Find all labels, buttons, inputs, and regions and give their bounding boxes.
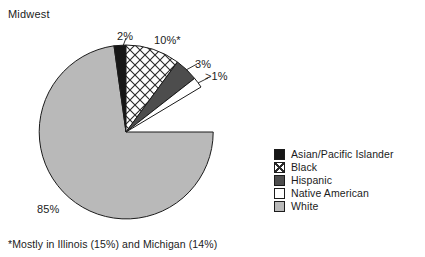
legend-swatch-hispanic bbox=[274, 175, 285, 186]
legend-item-hispanic: Hispanic bbox=[274, 174, 424, 187]
slice-label-white: 85% bbox=[37, 203, 59, 215]
legend-item-asian-pacific-islander: Asian/Pacific Islander bbox=[274, 148, 424, 161]
chart-footnote: *Mostly in Illinois (15%) and Michigan (… bbox=[8, 238, 217, 250]
legend-swatch-white bbox=[274, 201, 285, 212]
legend-swatch-native-american bbox=[274, 188, 285, 199]
slice-label-asian-pacific-islander: 2% bbox=[117, 30, 133, 42]
legend-label-white: White bbox=[291, 201, 318, 212]
legend-swatch-black bbox=[274, 162, 285, 173]
slice-label-black: 10%* bbox=[154, 34, 181, 46]
legend-label-black: Black bbox=[291, 162, 317, 173]
legend-label-asian-pacific-islander: Asian/Pacific Islander bbox=[291, 149, 394, 160]
slice-label-hispanic: 3% bbox=[195, 58, 211, 70]
legend-swatch-asian-pacific-islander bbox=[274, 149, 285, 160]
legend-label-native-american: Native American bbox=[291, 188, 369, 199]
legend-item-white: White bbox=[274, 200, 424, 213]
slice-label-native-american: >1% bbox=[205, 70, 228, 82]
legend-label-hispanic: Hispanic bbox=[291, 175, 332, 186]
legend-item-native-american: Native American bbox=[274, 187, 424, 200]
legend-item-black: Black bbox=[274, 161, 424, 174]
chart-legend: Asian/Pacific Islander Black Hispanic Na… bbox=[274, 148, 424, 213]
pie-chart-figure: Midwest 2% 10%* 3% bbox=[0, 0, 425, 257]
